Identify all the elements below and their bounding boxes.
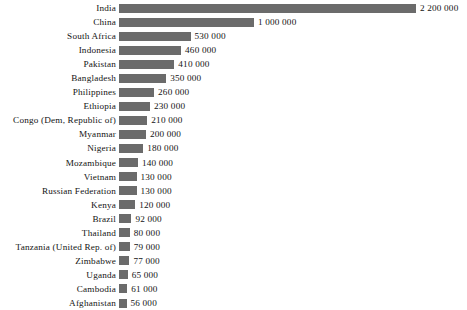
bar <box>119 102 150 111</box>
chart-row: Uganda65 000 <box>0 268 467 282</box>
chart-row: Afghanistan56 000 <box>0 296 467 310</box>
bar <box>119 130 146 139</box>
chart-row: Bangladesh350 000 <box>0 71 467 85</box>
bar-area: 260 000 <box>119 85 467 99</box>
bar <box>119 18 254 27</box>
chart-row: Vietnam130 000 <box>0 170 467 184</box>
bar-area: 79 000 <box>119 240 467 254</box>
value-label: 130 000 <box>137 172 172 182</box>
bar-area: 56 000 <box>119 296 467 310</box>
chart-row: South Africa530 000 <box>0 29 467 43</box>
chart-row: Myanmar200 000 <box>0 127 467 141</box>
category-label: Mozambique <box>0 158 119 168</box>
chart-row: India2 200 000 <box>0 1 467 15</box>
bar-area: 92 000 <box>119 212 467 226</box>
category-label: Indonesia <box>0 45 119 55</box>
bar-area: 1 000 000 <box>119 15 467 29</box>
value-label: 1 000 000 <box>254 17 296 27</box>
value-label: 460 000 <box>181 45 216 55</box>
bar-area: 230 000 <box>119 99 467 113</box>
chart-row: Kenya120 000 <box>0 198 467 212</box>
category-label: Bangladesh <box>0 73 119 83</box>
value-label: 140 000 <box>138 158 173 168</box>
chart-row: Cambodia61 000 <box>0 282 467 296</box>
category-label: Ethiopia <box>0 101 119 111</box>
bar <box>119 74 166 83</box>
value-label: 120 000 <box>135 200 170 210</box>
chart-row: Tanzania (United Rep. of)79 000 <box>0 240 467 254</box>
chart-rows: India2 200 000China1 000 000South Africa… <box>0 1 467 310</box>
category-label: Uganda <box>0 270 119 280</box>
value-label: 77 000 <box>129 256 159 266</box>
bar <box>119 284 127 293</box>
bar <box>119 172 137 181</box>
chart-row: Russian Federation130 000 <box>0 184 467 198</box>
category-label: South Africa <box>0 31 119 41</box>
category-label: Kenya <box>0 200 119 210</box>
bar <box>119 144 143 153</box>
bar-area: 460 000 <box>119 43 467 57</box>
chart-row: Brazil92 000 <box>0 212 467 226</box>
category-label: Zimbabwe <box>0 256 119 266</box>
bar-area: 530 000 <box>119 29 467 43</box>
bar-area: 80 000 <box>119 226 467 240</box>
value-label: 200 000 <box>146 129 181 139</box>
bar-area: 77 000 <box>119 254 467 268</box>
chart-row: Thailand80 000 <box>0 226 467 240</box>
bar <box>119 88 154 97</box>
bar-area: 120 000 <box>119 198 467 212</box>
category-label: Pakistan <box>0 59 119 69</box>
chart-row: Congo (Dem, Republic of)210 000 <box>0 113 467 127</box>
category-label: China <box>0 17 119 27</box>
bar-area: 2 200 000 <box>119 1 467 15</box>
bar <box>119 158 138 167</box>
value-label: 92 000 <box>131 214 161 224</box>
category-label: Brazil <box>0 214 119 224</box>
bar-area: 61 000 <box>119 282 467 296</box>
category-label: Afghanistan <box>0 298 119 308</box>
bar-area: 140 000 <box>119 156 467 170</box>
bar-area: 65 000 <box>119 268 467 282</box>
category-label: Philippines <box>0 87 119 97</box>
category-label: Cambodia <box>0 284 119 294</box>
value-label: 260 000 <box>154 87 189 97</box>
value-label: 210 000 <box>147 115 182 125</box>
value-label: 56 000 <box>127 298 157 308</box>
bar-area: 130 000 <box>119 170 467 184</box>
value-label: 79 000 <box>130 242 160 252</box>
category-label: Nigeria <box>0 143 119 153</box>
bar-area: 180 000 <box>119 141 467 155</box>
bar <box>119 60 174 69</box>
bar-area: 210 000 <box>119 113 467 127</box>
bar <box>119 270 128 279</box>
category-label: Myanmar <box>0 129 119 139</box>
category-label: Thailand <box>0 228 119 238</box>
bar-area: 130 000 <box>119 184 467 198</box>
value-label: 80 000 <box>130 228 160 238</box>
bar <box>119 200 135 209</box>
bar <box>119 116 147 125</box>
chart-row: Mozambique140 000 <box>0 156 467 170</box>
bar <box>119 46 181 55</box>
bar <box>119 186 137 195</box>
bar <box>119 299 127 308</box>
bar <box>119 242 130 251</box>
chart-row: Philippines260 000 <box>0 85 467 99</box>
value-label: 230 000 <box>150 101 185 111</box>
value-label: 530 000 <box>191 31 226 41</box>
value-label: 180 000 <box>143 143 178 153</box>
category-label: Russian Federation <box>0 186 119 196</box>
category-label: Congo (Dem, Republic of) <box>0 115 119 125</box>
bar-area: 410 000 <box>119 57 467 71</box>
chart-row: Indonesia460 000 <box>0 43 467 57</box>
value-label: 350 000 <box>166 73 201 83</box>
value-label: 2 200 000 <box>416 3 458 13</box>
chart-row: Pakistan410 000 <box>0 57 467 71</box>
chart-row: Nigeria180 000 <box>0 141 467 155</box>
value-label: 65 000 <box>128 270 158 280</box>
bar <box>119 256 129 265</box>
bar <box>119 32 191 41</box>
bar <box>119 214 131 223</box>
value-label: 61 000 <box>127 284 157 294</box>
